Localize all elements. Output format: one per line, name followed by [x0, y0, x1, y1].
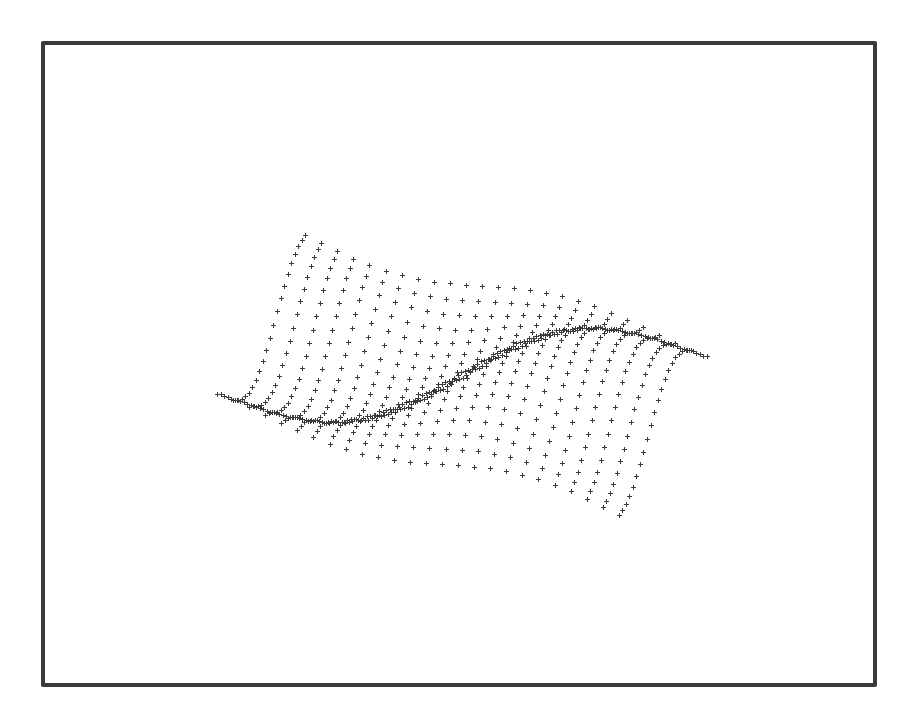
- scatter-plot-area: [0, 0, 908, 714]
- figure: [0, 0, 908, 714]
- plus-markers: [215, 233, 710, 518]
